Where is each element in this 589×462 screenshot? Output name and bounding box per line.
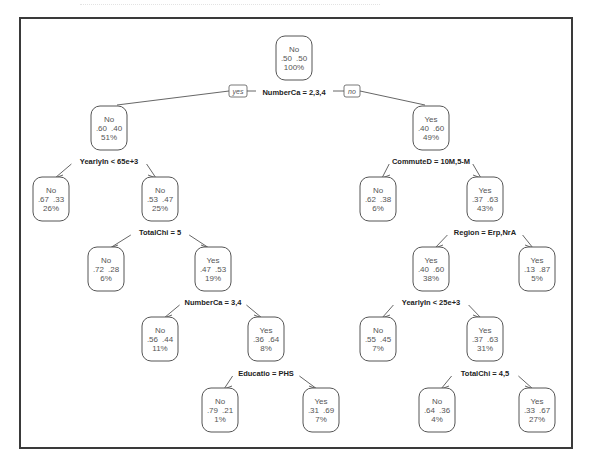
split-label: YearlyIn < 25e+3 xyxy=(402,298,460,307)
node-class-label: Yes xyxy=(478,326,491,335)
no-tag-label: no xyxy=(348,88,356,95)
node-class-label: Yes xyxy=(206,256,219,265)
node-class-label: No xyxy=(289,45,300,54)
node-probabilities: .37 .63 xyxy=(472,335,499,344)
tree-node: No.55 .457% xyxy=(360,317,396,361)
node-percentage: 4% xyxy=(431,415,443,424)
edge-left xyxy=(164,305,180,318)
node-class-label: No xyxy=(101,256,112,265)
split-label: Region = Erp,NrA xyxy=(454,228,517,237)
node-percentage: 6% xyxy=(100,274,112,283)
tree-node: No.64 .364% xyxy=(419,388,455,432)
node-class-label: No xyxy=(215,397,226,406)
node-percentage: 11% xyxy=(152,344,167,353)
node-probabilities: .13 .87 xyxy=(524,265,551,274)
edge-left xyxy=(117,91,229,105)
split-label: TotalChi = 5 xyxy=(139,228,181,237)
node-percentage: 49% xyxy=(423,133,439,142)
node-probabilities: .47 .53 xyxy=(200,265,227,274)
node-class-label: Yes xyxy=(259,326,272,335)
node-probabilities: .72 .28 xyxy=(93,265,120,274)
edge-right xyxy=(473,164,481,178)
edge-right xyxy=(147,164,156,178)
node-class-label: Yes xyxy=(424,115,437,124)
node-class-label: Yes xyxy=(530,256,543,265)
node-class-label: No xyxy=(104,115,115,124)
split-label: Educatio = PHS xyxy=(238,369,294,378)
node-probabilities: .37 .63 xyxy=(472,195,499,204)
node-probabilities: .53 .47 xyxy=(147,195,174,204)
node-probabilities: .67 .33 xyxy=(38,195,65,204)
node-probabilities: .55 .45 xyxy=(365,335,392,344)
node-percentage: 26% xyxy=(43,204,59,213)
node-percentage: 27% xyxy=(529,415,545,424)
tree-node: No.53 .4725% xyxy=(142,177,178,221)
tree-node: Yes.40 .6049% xyxy=(413,106,449,150)
tree-node: Yes.37 .6331% xyxy=(467,317,503,361)
edge-right xyxy=(523,235,533,248)
split-label: TotalChi = 4,5 xyxy=(461,369,509,378)
edge-right xyxy=(518,376,533,389)
node-class-label: Yes xyxy=(424,256,437,265)
tree-node: No.56 .4411% xyxy=(142,317,178,361)
node-class-label: Yes xyxy=(314,397,327,406)
node-percentage: 100% xyxy=(284,63,304,72)
node-percentage: 7% xyxy=(315,415,327,424)
node-percentage: 51% xyxy=(101,133,117,142)
decision-tree-diagram: NumberCa = 2,3,4YearlyIn < 65e+3CommuteD… xyxy=(0,0,589,462)
split-label: YearlyIn < 65e+3 xyxy=(80,157,138,166)
node-class-label: No xyxy=(155,326,166,335)
edge-left xyxy=(382,164,390,178)
node-probabilities: .36 .64 xyxy=(253,335,280,344)
tree-node: No.62 .386% xyxy=(360,177,396,221)
edge-left xyxy=(382,305,393,318)
node-probabilities: .50 .50 xyxy=(281,54,308,63)
edge-left xyxy=(441,376,452,389)
node-probabilities: .62 .38 xyxy=(365,195,392,204)
node-probabilities: .79 .21 xyxy=(207,406,234,415)
tree-node: No.50 .50100% xyxy=(276,36,312,80)
node-class-label: Yes xyxy=(478,186,491,195)
tree-node: No.60 .4051% xyxy=(91,106,127,150)
edge-right xyxy=(189,235,209,248)
edge-left xyxy=(110,235,131,248)
node-class-label: No xyxy=(46,186,57,195)
node-class-label: No xyxy=(432,397,443,406)
tree-node: No.67 .3326% xyxy=(33,177,69,221)
node-percentage: 8% xyxy=(260,344,272,353)
node-percentage: 43% xyxy=(477,204,493,213)
node-class-label: No xyxy=(373,326,384,335)
no-tag: no xyxy=(344,85,360,97)
edge-right xyxy=(360,91,425,105)
node-probabilities: .40 .60 xyxy=(418,265,445,274)
tree-node: Yes.33 .6727% xyxy=(519,388,555,432)
node-percentage: 31% xyxy=(477,344,493,353)
edge-right xyxy=(299,376,317,389)
yes-tag: yes xyxy=(229,85,247,97)
edge-left xyxy=(55,164,71,178)
tree-node: Yes.36 .648% xyxy=(248,317,284,361)
node-class-label: Yes xyxy=(530,397,543,406)
node-probabilities: .64 .36 xyxy=(424,406,451,415)
node-class-label: No xyxy=(373,186,384,195)
node-probabilities: .40 .60 xyxy=(418,124,445,133)
edge-right xyxy=(246,305,262,318)
edge-left xyxy=(435,235,447,248)
node-percentage: 5% xyxy=(531,274,543,283)
split-label: CommuteD = 10M,5-M xyxy=(392,157,470,166)
tree-node: No.79 .211% xyxy=(202,388,238,432)
tree-node: No.72 .286% xyxy=(88,247,124,291)
tree-node: Yes.47 .5319% xyxy=(195,247,231,291)
node-percentage: 19% xyxy=(205,274,221,283)
split-label: NumberCa = 3,4 xyxy=(185,298,243,307)
tree-node: Yes.40 .6038% xyxy=(413,247,449,291)
node-percentage: 1% xyxy=(214,415,226,424)
node-percentage: 6% xyxy=(372,204,384,213)
edge-right xyxy=(469,305,481,318)
tree-node: Yes.31 .697% xyxy=(303,388,339,432)
node-class-label: No xyxy=(155,186,166,195)
node-probabilities: .33 .67 xyxy=(524,406,551,415)
split-label: NumberCa = 2,3,4 xyxy=(262,88,326,97)
node-probabilities: .31 .69 xyxy=(308,406,335,415)
node-percentage: 25% xyxy=(152,204,168,213)
